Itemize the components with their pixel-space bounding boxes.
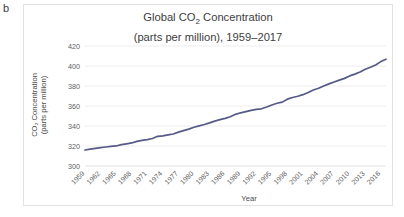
x-tick-label-2010: 2010	[334, 170, 350, 186]
x-tick-label-1998: 1998	[272, 170, 288, 186]
x-tick-label-1995: 1995	[257, 170, 273, 186]
x-axis-title: Year	[241, 194, 257, 203]
figure-panel-b: b Global CO2 Concentration (parts per mi…	[0, 0, 404, 217]
x-tick-label-1968: 1968	[116, 170, 132, 186]
y-tick-label-380: 380	[68, 82, 80, 91]
x-tick-label-1971: 1971	[132, 170, 148, 186]
x-tick-label-1983: 1983	[194, 170, 210, 186]
x-tick-label-2001: 2001	[288, 170, 304, 186]
x-tick-label-2004: 2004	[303, 170, 319, 186]
line-chart-plot: 300320340360380400420 195919621965196819…	[24, 5, 394, 207]
x-tick-label-1986: 1986	[210, 170, 226, 186]
x-tick-label-2007: 2007	[319, 170, 335, 186]
y-tick-label-300: 300	[68, 162, 80, 171]
y-axis-tick-labels: 300320340360380400420	[68, 42, 80, 171]
y-tick-label-320: 320	[68, 142, 80, 151]
x-tick-label-2013: 2013	[350, 170, 366, 186]
gridlines	[85, 46, 386, 166]
panel-label-b: b	[3, 2, 9, 14]
y-axis-title: CO₂ Concentration (parts per million)	[30, 73, 48, 137]
x-tick-label-1977: 1977	[163, 170, 179, 186]
x-tick-label-1980: 1980	[179, 170, 195, 186]
y-tick-label-360: 360	[68, 102, 80, 111]
x-tick-label-1989: 1989	[225, 170, 241, 186]
x-tick-label-1962: 1962	[85, 170, 101, 186]
co2-concentration-line	[85, 59, 386, 150]
chart-container: Global CO2 Concentration (parts per mill…	[23, 4, 393, 206]
y-tick-label-340: 340	[68, 122, 80, 131]
x-tick-label-1959: 1959	[70, 170, 86, 186]
y-tick-label-400: 400	[68, 62, 80, 71]
x-axis-tick-labels: 1959196219651968197119741977198019831986…	[70, 170, 382, 186]
x-tick-label-1992: 1992	[241, 170, 257, 186]
x-tick-label-1965: 1965	[101, 170, 117, 186]
y-axis-title-line2: (parts per million)	[39, 75, 48, 134]
y-axis-title-line1: CO₂ Concentration	[30, 73, 39, 137]
y-tick-label-420: 420	[68, 42, 80, 51]
x-tick-label-1974: 1974	[148, 170, 164, 186]
x-tick-label-2016: 2016	[366, 170, 382, 186]
